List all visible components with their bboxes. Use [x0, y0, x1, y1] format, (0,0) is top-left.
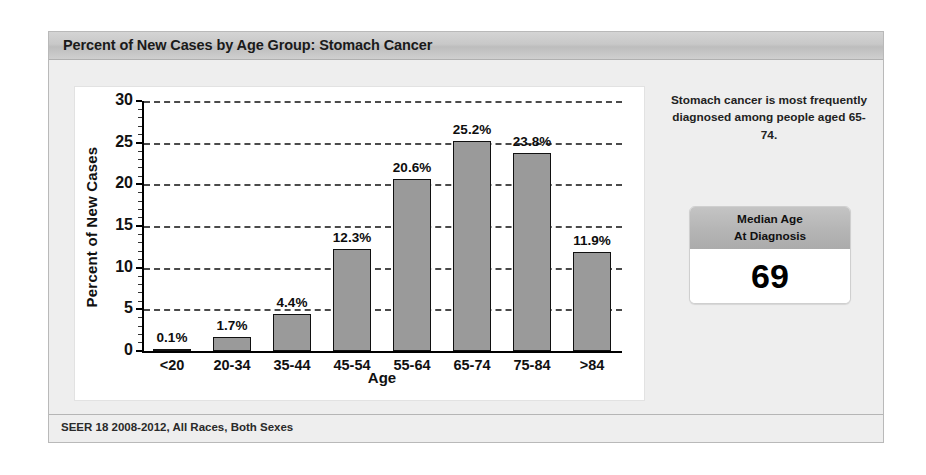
bar-group: 20.6%55-64 — [382, 101, 442, 351]
y-tick-label: 10 — [115, 258, 133, 276]
y-tick-label: 20 — [115, 175, 133, 193]
panel-title-bar: Percent of New Cases by Age Group: Stoma… — [49, 32, 883, 60]
bar-value-label: 20.6% — [393, 160, 431, 175]
y-tick-label: 25 — [115, 133, 133, 151]
bar[interactable] — [213, 337, 251, 351]
median-age-header: Median Age At Diagnosis — [690, 207, 850, 249]
y-tick-label: 30 — [115, 91, 133, 109]
bar-group: 4.4%35-44 — [262, 101, 322, 351]
plot-area: 0510152025300.1%<201.7%20-344.4%35-4412.… — [142, 101, 622, 353]
chart-card: Percent of New Cases 0510152025300.1%<20… — [74, 86, 645, 401]
median-age-box: Median Age At Diagnosis 69 — [689, 206, 851, 304]
bar-value-label: 1.7% — [217, 318, 248, 333]
bar-group: 12.3%45-54 — [322, 101, 382, 351]
x-axis-title: Age — [142, 369, 622, 386]
chart-panel: Percent of New Cases by Age Group: Stoma… — [48, 31, 884, 443]
source-note: SEER 18 2008-2012, All Races, Both Sexes — [61, 421, 293, 433]
side-info-column: Stomach cancer is most frequently diagno… — [669, 92, 869, 144]
bar[interactable] — [333, 249, 371, 352]
bar[interactable] — [393, 179, 431, 351]
median-age-label-line1: Median Age — [690, 211, 850, 228]
bar-value-label: 11.9% — [573, 233, 611, 248]
bar-value-label: 23.8% — [513, 134, 551, 149]
bar-group: 0.1%<20 — [142, 101, 202, 351]
bar[interactable] — [273, 314, 311, 351]
y-tick-label: 0 — [124, 341, 133, 359]
diagnosis-note: Stomach cancer is most frequently diagno… — [669, 92, 869, 144]
median-age-label-line2: At Diagnosis — [690, 228, 850, 245]
y-tick-label: 15 — [115, 216, 133, 234]
bar[interactable] — [513, 153, 551, 351]
median-age-value: 69 — [690, 249, 850, 303]
bar-group: 25.2%65-74 — [442, 101, 502, 351]
y-tick-label: 5 — [124, 300, 133, 318]
x-axis-line — [142, 351, 622, 353]
screenshot-root: Percent of New Cases by Age Group: Stoma… — [0, 0, 926, 475]
bar[interactable] — [573, 252, 611, 351]
bar-group: 1.7%20-34 — [202, 101, 262, 351]
bar-value-label: 0.1% — [157, 330, 188, 345]
panel-footer: SEER 18 2008-2012, All Races, Both Sexes — [49, 414, 883, 442]
bar-group: 23.8%75-84 — [502, 101, 562, 351]
bar-value-label: 25.2% — [453, 122, 491, 137]
bar-group: 11.9%>84 — [562, 101, 622, 351]
page-title: Percent of New Cases by Age Group: Stoma… — [63, 37, 432, 53]
bar[interactable] — [453, 141, 491, 351]
bar-value-label: 12.3% — [333, 230, 371, 245]
bar[interactable] — [153, 349, 191, 351]
y-axis-title: Percent of New Cases — [83, 101, 103, 353]
bar-value-label: 4.4% — [277, 295, 308, 310]
